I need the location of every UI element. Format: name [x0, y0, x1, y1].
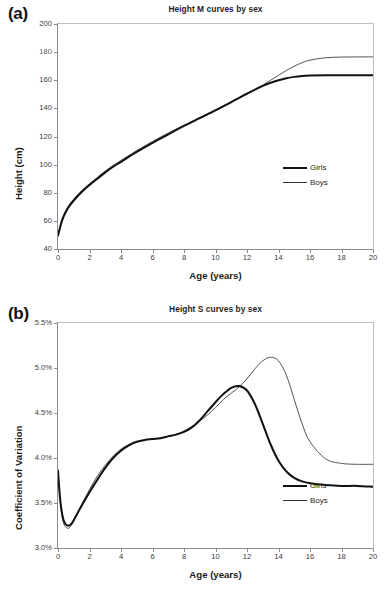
legend-label: Girls: [310, 481, 326, 490]
x-tick-mark: [121, 250, 122, 253]
curves-a: [58, 24, 373, 249]
y-tick-label: 200: [39, 20, 52, 28]
x-tick-label: 4: [109, 254, 133, 262]
x-tick-label: 6: [141, 553, 165, 561]
legend-label: Girls: [310, 163, 326, 172]
x-tick-mark: [310, 549, 311, 552]
y-tick-mark: [54, 458, 57, 459]
x-tick-label: 12: [235, 553, 259, 561]
y-tick-label: 100: [39, 161, 52, 169]
x-axis-label-a: Age (years): [57, 270, 374, 281]
y-tick-mark: [54, 108, 57, 109]
x-tick-label: 14: [267, 553, 291, 561]
x-tick-mark: [247, 250, 248, 253]
plot-area-b: [57, 322, 374, 549]
y-tick-mark: [54, 249, 57, 250]
x-tick-label: 10: [204, 254, 228, 262]
y-tick-label: 80: [44, 189, 52, 197]
curves-b: [58, 323, 373, 548]
panel-label-a: (a): [8, 4, 28, 24]
x-tick-label: 8: [172, 553, 196, 561]
y-axis-label-a: Height (cm): [13, 147, 24, 200]
x-tick-mark: [373, 549, 374, 552]
plot-area-a: [57, 23, 374, 250]
y-tick-mark: [54, 221, 57, 222]
x-tick-label: 2: [78, 254, 102, 262]
x-tick-mark: [121, 549, 122, 552]
x-tick-mark: [153, 549, 154, 552]
x-tick-label: 14: [267, 254, 291, 262]
legend-a: GirlsBoys: [283, 160, 328, 190]
legend-b: GirlsBoys: [283, 478, 328, 508]
y-tick-mark: [54, 413, 57, 414]
x-tick-label: 20: [361, 254, 385, 262]
x-tick-mark: [216, 549, 217, 552]
curve-girls: [58, 75, 373, 235]
x-tick-mark: [184, 549, 185, 552]
y-axis-label-b: Coefficient of Variation: [13, 426, 24, 530]
y-tick-label: 3.5%: [35, 499, 52, 507]
y-tick-label: 120: [39, 133, 52, 141]
x-tick-label: 16: [298, 254, 322, 262]
x-tick-label: 6: [141, 254, 165, 262]
curve-boys: [58, 57, 373, 235]
y-tick-mark: [54, 165, 57, 166]
y-tick-mark: [54, 24, 57, 25]
x-tick-label: 18: [330, 254, 354, 262]
x-tick-mark: [342, 250, 343, 253]
y-tick-mark: [54, 52, 57, 53]
y-tick-mark: [54, 368, 57, 369]
legend-item-girls: Girls: [283, 160, 328, 175]
x-tick-mark: [310, 250, 311, 253]
y-tick-label: 60: [44, 217, 52, 225]
y-tick-label: 4.5%: [35, 409, 52, 417]
x-tick-mark: [279, 549, 280, 552]
y-tick-label: 160: [39, 76, 52, 84]
x-tick-mark: [58, 549, 59, 552]
x-tick-mark: [90, 250, 91, 253]
y-tick-label: 5.0%: [35, 364, 52, 372]
x-tick-label: 2: [78, 553, 102, 561]
x-tick-label: 12: [235, 254, 259, 262]
x-axis-label-b: Age (years): [57, 569, 374, 580]
x-tick-label: 0: [46, 254, 70, 262]
x-tick-label: 18: [330, 553, 354, 561]
x-tick-mark: [90, 549, 91, 552]
x-tick-mark: [247, 549, 248, 552]
chart-panel-a: (a) Height M curves by sex Height (cm) 2…: [0, 0, 391, 300]
y-tick-mark: [54, 193, 57, 194]
x-tick-label: 8: [172, 254, 196, 262]
chart-title-a: Height M curves by sex: [57, 4, 374, 14]
chart-title-b: Height S curves by sex: [57, 304, 374, 314]
y-tick-mark: [54, 323, 57, 324]
y-tick-label: 5.5%: [35, 319, 52, 327]
y-tick-mark: [54, 503, 57, 504]
legend-line-icon: [283, 485, 307, 487]
y-tick-label: 4.0%: [35, 454, 52, 462]
y-tick-label: 140: [39, 104, 52, 112]
legend-label: Boys: [310, 496, 328, 505]
legend-line-icon: [283, 182, 307, 183]
legend-item-boys: Boys: [283, 175, 328, 190]
x-tick-label: 0: [46, 553, 70, 561]
x-tick-mark: [342, 549, 343, 552]
chart-panel-b: (b) Height S curves by sex Coefficient o…: [0, 300, 391, 593]
x-tick-mark: [184, 250, 185, 253]
x-tick-label: 4: [109, 553, 133, 561]
y-tick-label: 3.0%: [35, 544, 52, 552]
legend-item-girls: Girls: [283, 478, 328, 493]
x-tick-label: 20: [361, 553, 385, 561]
legend-line-icon: [283, 167, 307, 169]
y-tick-label: 180: [39, 48, 52, 56]
panel-label-b: (b): [8, 304, 29, 324]
x-tick-label: 10: [204, 553, 228, 561]
x-tick-mark: [373, 250, 374, 253]
y-tick-label: 40: [44, 245, 52, 253]
x-tick-mark: [279, 250, 280, 253]
x-tick-mark: [58, 250, 59, 253]
legend-label: Boys: [310, 178, 328, 187]
x-tick-mark: [216, 250, 217, 253]
x-tick-label: 16: [298, 553, 322, 561]
x-tick-mark: [153, 250, 154, 253]
y-tick-mark: [54, 548, 57, 549]
